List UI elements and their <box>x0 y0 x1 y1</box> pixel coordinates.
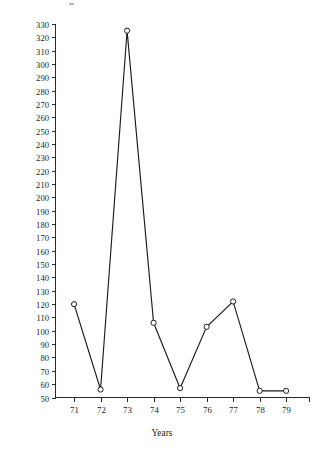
x-axis-tick-label: 72 <box>97 405 106 415</box>
x-axis-tick-label: 79 <box>282 405 291 415</box>
data-point-marker <box>204 324 209 329</box>
x-axis-tick-label: 78 <box>256 405 265 415</box>
x-axis-tick-label: 75 <box>176 405 185 415</box>
y-axis-tick-label: 120 <box>36 300 49 310</box>
y-axis-tick-label: 250 <box>36 127 49 137</box>
data-point-marker <box>178 386 183 391</box>
data-point-marker <box>98 387 103 392</box>
y-axis-tick-label: 190 <box>36 207 49 217</box>
y-axis-tick-label: 160 <box>36 247 49 257</box>
data-point-marker <box>71 302 76 307</box>
x-axis-tick-label: 74 <box>150 405 159 415</box>
y-axis-tick-label: 130 <box>36 287 49 297</box>
data-point-marker <box>231 299 236 304</box>
data-point-marker <box>124 28 129 33</box>
y-axis-tick-label: 230 <box>36 153 49 163</box>
y-axis-tick-label: 320 <box>36 33 49 43</box>
y-axis-tick-label: 330 <box>36 20 49 30</box>
x-axis-tick-label: 77 <box>229 405 238 415</box>
y-axis-tick-label: 220 <box>36 167 49 177</box>
y-axis-tick-label: 140 <box>36 273 49 283</box>
data-point-marker <box>284 388 289 393</box>
y-axis-tick-label: 210 <box>36 180 49 190</box>
y-axis-tick-label: 110 <box>36 313 49 323</box>
y-axis-tick-label: 170 <box>36 233 49 243</box>
y-axis-tick-label: 280 <box>36 87 49 97</box>
y-axis-tick-label: 70 <box>40 367 49 377</box>
y-axis-tick-label: 60 <box>40 380 49 390</box>
line-chart-plot: 5060708090100110120130140150160170180190… <box>0 0 324 453</box>
chart-figure: Customers affected per interruption (×10… <box>0 0 324 453</box>
y-axis-tick-label: 310 <box>36 47 49 57</box>
y-axis-tick-label: 260 <box>36 113 49 123</box>
y-axis-tick-label: 270 <box>36 100 49 110</box>
y-axis-tick-label: 90 <box>40 340 49 350</box>
x-axis-tick-label: 71 <box>70 405 79 415</box>
data-point-marker <box>257 388 262 393</box>
top-speck-mark <box>69 3 74 5</box>
y-axis-tick-label: 150 <box>36 260 49 270</box>
y-axis-tick-label: 100 <box>36 327 49 337</box>
x-axis-title: Years <box>0 428 324 438</box>
y-axis-tick-label: 180 <box>36 220 49 230</box>
y-axis-tick-label: 300 <box>36 60 49 70</box>
x-axis-tick-label: 73 <box>123 405 132 415</box>
data-point-marker <box>151 320 156 325</box>
y-axis-tick-label: 290 <box>36 73 49 83</box>
y-axis-tick-label: 200 <box>36 193 49 203</box>
y-axis-tick-label: 80 <box>40 353 49 363</box>
x-axis-tick-label: 76 <box>203 405 212 415</box>
y-axis-tick-label: 240 <box>36 140 49 150</box>
y-axis-tick-label: 50 <box>40 394 49 404</box>
